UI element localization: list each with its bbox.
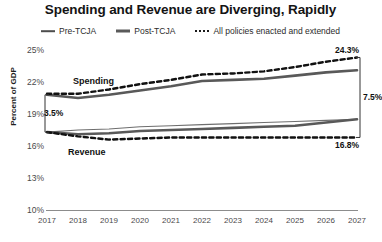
annotation-revenue: Revenue xyxy=(68,147,106,157)
series-line-post-tcja-revenue xyxy=(47,119,357,134)
annotation-endpoint-bottom: 16.8% xyxy=(335,140,359,150)
annotation-gap-left: 3.5% xyxy=(44,108,63,118)
annotation-spending: Spending xyxy=(73,76,114,86)
annotation-endpoint-top: 24.3% xyxy=(335,45,359,55)
annotation-gap-right: 7.5% xyxy=(363,92,382,102)
